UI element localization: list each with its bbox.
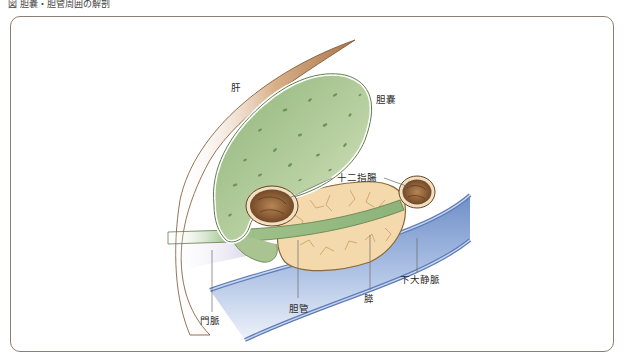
label-bile-duct: 胆管 — [289, 304, 309, 314]
label-ivc: 下大静脈 — [400, 275, 440, 285]
anatomy-illustration — [0, 0, 624, 364]
label-portal-vein: 門脈 — [200, 316, 220, 326]
duodenum-left-shape — [246, 186, 298, 226]
label-liver: 肝 — [231, 83, 241, 93]
label-gallbladder: 胆嚢 — [376, 95, 396, 105]
label-duodenum: 十二指腸 — [337, 173, 377, 183]
label-pancreas: 膵 — [364, 294, 374, 304]
duodenum-right-shape — [399, 176, 435, 208]
